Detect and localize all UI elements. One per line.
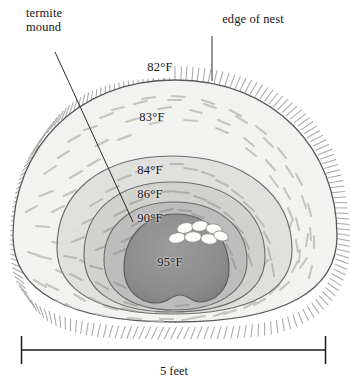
temperature-label-84: 84°F: [137, 163, 162, 178]
termite-nest-diagram: termite mound edge of nest 82°F 83°F 84°…: [0, 0, 350, 376]
temperature-label-95: 95°F: [157, 255, 182, 270]
temperature-label-83: 83°F: [139, 110, 164, 125]
temperature-label-86: 86°F: [137, 187, 162, 202]
temperature-label-82: 82°F: [147, 60, 172, 75]
scale-bar-caption: 5 feet: [160, 364, 188, 376]
callout-edge-of-nest: edge of nest: [222, 12, 284, 26]
scale-bar: [21, 336, 326, 364]
temperature-label-90: 90°F: [137, 211, 162, 226]
nest-cross-section-illustration: [0, 0, 350, 376]
callout-termite-mound: termite mound: [26, 6, 62, 34]
